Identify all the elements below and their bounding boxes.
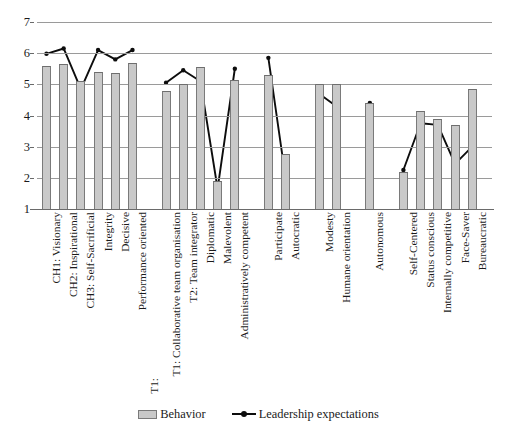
bar bbox=[59, 64, 68, 209]
x-axis-tick-label: Face-Saver bbox=[460, 212, 472, 263]
y-axis-tick-label: 2 bbox=[4, 172, 30, 185]
y-axis-tick-mark bbox=[30, 84, 34, 85]
x-axis-tick-label: T2: Team integrator bbox=[188, 212, 200, 303]
y-axis-tick-mark bbox=[30, 53, 34, 54]
gridline bbox=[37, 53, 492, 54]
bar bbox=[213, 181, 222, 209]
bar bbox=[315, 84, 324, 209]
x-axis-tick-label: Bureaucratic bbox=[477, 212, 489, 270]
x-axis-tick-label: Modesty bbox=[324, 212, 336, 252]
bar bbox=[76, 81, 85, 209]
y-axis-tick-label: 7 bbox=[4, 16, 30, 29]
legend-label-leadership-expectations: Leadership expectations bbox=[259, 407, 379, 422]
x-axis-tick-label: Status conscious bbox=[425, 212, 437, 288]
x-axis-tick-label: T1: Collaborative team organisation bbox=[171, 212, 183, 377]
bar bbox=[281, 154, 290, 209]
x-axis-tick-label: Performance oriented bbox=[137, 212, 149, 310]
y-axis-tick-mark bbox=[30, 22, 34, 23]
bar bbox=[451, 125, 460, 209]
x-axis-category-labels: CH1: VisionaryCH2: InspirationalCH3: Sel… bbox=[37, 212, 492, 382]
legend-entry-behavior: Behavior bbox=[138, 407, 205, 422]
x-axis-tick-label: Malevolent bbox=[222, 212, 234, 264]
x-axis-tick-label: Diplomatic bbox=[205, 212, 217, 263]
y-axis-tick-label: 3 bbox=[4, 140, 30, 153]
bar bbox=[162, 91, 171, 209]
y-axis-tick-mark bbox=[30, 116, 34, 117]
bar bbox=[365, 103, 374, 209]
y-axis-tick-label: 4 bbox=[4, 109, 30, 122]
legend-label-behavior: Behavior bbox=[160, 407, 205, 422]
x-axis-tick-label: Humane orientation bbox=[341, 212, 353, 303]
x-axis-tick-label: Self-Centered bbox=[408, 212, 420, 275]
x-axis-tick-label: Decisive bbox=[120, 212, 132, 252]
x-axis-tick-label: Participate bbox=[273, 212, 285, 261]
y-axis-tick-label: 6 bbox=[4, 47, 30, 60]
line-data-point-marker bbox=[96, 48, 100, 52]
x-axis-line bbox=[33, 209, 494, 210]
y-axis-tick-mark bbox=[30, 147, 34, 148]
plot-area bbox=[37, 22, 492, 209]
gridline bbox=[37, 22, 492, 23]
y-axis-tick-label: 1 bbox=[4, 203, 30, 216]
y-axis-tick-mark bbox=[30, 178, 34, 179]
bar bbox=[264, 75, 273, 209]
y-axis-tick-label: 5 bbox=[4, 78, 30, 91]
line-marker-swatch-icon bbox=[232, 409, 256, 419]
chart-container: 7654321 CH1: VisionaryCH2: Inspirational… bbox=[0, 0, 517, 438]
x-axis-tick-label: Internally competitive bbox=[442, 212, 454, 313]
bar bbox=[179, 84, 188, 209]
x-axis-tick-label: Administratively competent bbox=[239, 212, 251, 339]
line-data-point-marker bbox=[113, 57, 117, 61]
y-axis: 7654321 bbox=[0, 22, 30, 209]
bar bbox=[468, 89, 477, 209]
bar bbox=[230, 80, 239, 209]
bar-swatch-icon bbox=[138, 410, 157, 419]
x-axis-tick-label: CH1: Visionary bbox=[51, 212, 63, 284]
bar bbox=[111, 73, 120, 209]
x-axis-tick-label: CH3: Self-Sacrificial bbox=[85, 212, 97, 308]
bar bbox=[42, 66, 51, 209]
bar bbox=[196, 67, 205, 209]
bar bbox=[94, 72, 103, 209]
x-axis-tick-label: Autonomous bbox=[374, 212, 386, 271]
bar bbox=[416, 111, 425, 209]
line-data-point-marker bbox=[61, 46, 65, 50]
bar bbox=[332, 84, 341, 209]
line-data-point-marker bbox=[130, 48, 134, 52]
bar bbox=[399, 172, 408, 209]
x-axis-tick-label: Autocratic bbox=[290, 212, 302, 260]
x-axis-tick-label: Integrity bbox=[103, 212, 115, 251]
bar bbox=[433, 119, 442, 209]
line-data-point-marker bbox=[266, 56, 270, 60]
bar bbox=[128, 63, 137, 209]
group-annotation-t1: T1: bbox=[148, 378, 160, 394]
chart-legend: Behavior Leadership expectations bbox=[0, 403, 517, 425]
legend-entry-leadership-expectations: Leadership expectations bbox=[232, 407, 379, 422]
x-axis-tick-label: CH2: Inspirational bbox=[68, 212, 80, 297]
line-data-point-marker bbox=[233, 67, 237, 71]
line-data-point-marker bbox=[181, 68, 185, 72]
